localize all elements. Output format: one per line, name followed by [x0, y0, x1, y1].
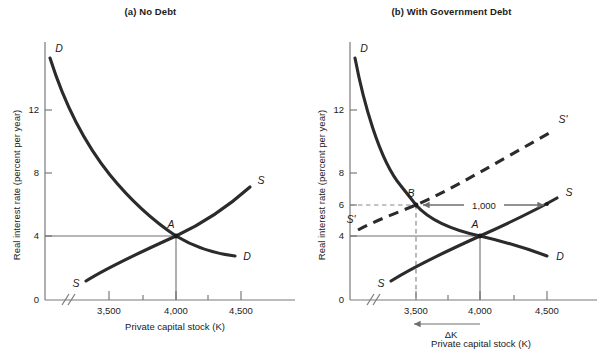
supply-curve [86, 187, 250, 281]
demand-curve [355, 58, 547, 256]
point-a-marker [174, 234, 179, 239]
panel-a-plot: 12 8 4 0 3,500 4,000 4,500 Private capit… [0, 0, 301, 355]
y-ticklabel-0: 0 [34, 294, 39, 305]
point-a-label: A [470, 218, 478, 230]
y-ticklabel-4: 4 [34, 230, 39, 241]
y-ticklabel-8: 8 [34, 167, 39, 178]
supply-gap-endpoint-marker [545, 202, 549, 206]
x-ticklabel-3500: 3,500 [97, 305, 121, 316]
x-ticklabel-3500: 3,500 [404, 305, 428, 316]
point-a-marker [478, 234, 483, 239]
y-axis-label: Real interest rate (percent per year) [11, 110, 22, 260]
delta-k-label: ΔK [445, 329, 458, 340]
y-ticklabel-0: 0 [339, 294, 344, 305]
point-b-label: B [407, 187, 414, 199]
demand-label-right: D [243, 250, 251, 262]
y-ticklabel-12: 12 [28, 104, 39, 115]
x-ticklabel-4500: 4,500 [229, 305, 253, 316]
supply-label-left: S [72, 277, 79, 289]
x-ticklabel-4000: 4,000 [164, 305, 188, 316]
demand-curve [50, 58, 235, 256]
supply-label-right: S [565, 186, 572, 198]
panel-no-debt: (a) No Debt 12 8 4 0 3 [0, 0, 301, 355]
gap-label-1000: 1,000 [472, 200, 496, 211]
x-ticklabel-4500: 4,500 [535, 305, 559, 316]
y-ticklabel-8: 8 [339, 167, 344, 178]
x-axis-label: Private capital stock (K) [125, 321, 225, 332]
panel-b-plot: 12 8 6 4 0 3,500 4,000 4,500 Private cap… [301, 0, 602, 355]
y-ticklabel-12: 12 [333, 104, 344, 115]
supply-label-right: S [257, 174, 264, 186]
panel-with-government-debt: (b) With Government Debt [301, 0, 602, 355]
x-ticklabel-4000: 4,000 [468, 305, 492, 316]
y-ticklabel-4: 4 [339, 230, 344, 241]
demand-label-top: D [360, 42, 368, 54]
y-axis-label: Real interest rate (percent per year) [316, 110, 327, 260]
supply-label-left: S [377, 277, 384, 289]
demand-label-top: D [55, 42, 63, 54]
demand-label-right: D [556, 250, 564, 262]
supply-shifted-label-right: S' [558, 113, 568, 125]
figure-container: (a) No Debt 12 8 4 0 3 [0, 0, 603, 355]
y-ticklabel-6: 6 [339, 199, 344, 210]
supply-shifted-label-left: S' [346, 213, 356, 225]
point-b-marker [414, 203, 419, 208]
point-a-label: A [166, 218, 174, 230]
